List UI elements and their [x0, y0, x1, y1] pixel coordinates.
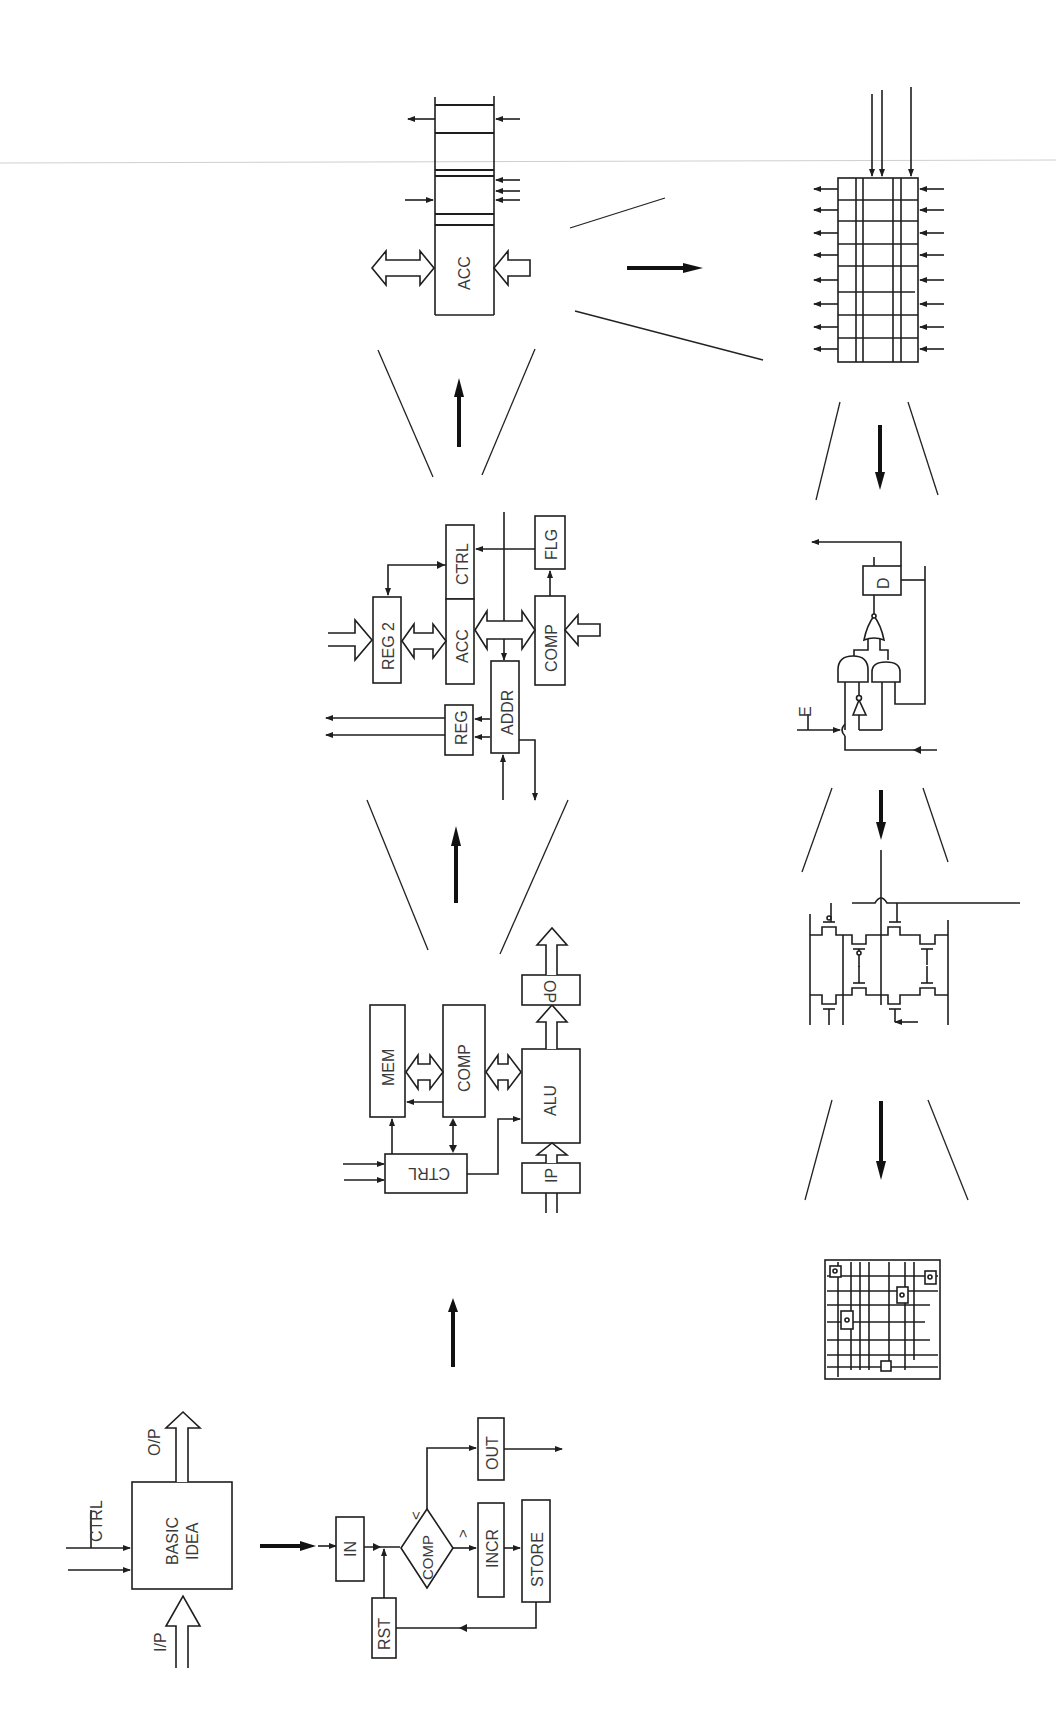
flow-in-arrowhead [373, 1543, 381, 1551]
stage-block-diagram: CTRL MEM COMP ALU IP OP [343, 928, 580, 1213]
layout-via-2 [845, 1318, 849, 1322]
flow-in-label: IN [342, 1541, 359, 1557]
rt-reg-label: REG [453, 710, 470, 745]
stage-layout [825, 1260, 940, 1379]
basic-idea-box [132, 1482, 232, 1589]
layout-via-1 [833, 1269, 837, 1273]
refine-arrow-3-head [451, 826, 461, 846]
stage-register-detail: ACC [372, 96, 530, 315]
tr-upper-chain [810, 927, 948, 944]
refine-arrow-8-head [876, 1161, 886, 1180]
block-comp-label: COMP [456, 1044, 473, 1092]
layout-via-3 [900, 1293, 904, 1297]
refine-arrow-4-head [454, 378, 464, 397]
stage-basic-idea: BASIC IDEA CTRL I/P O/P [66, 1412, 232, 1668]
tr-pmos-bubble-1 [827, 916, 831, 920]
gate-d-label: D [875, 577, 892, 589]
rt-comp-label: COMP [543, 624, 560, 672]
funnel-5-top [570, 198, 665, 228]
flow-loop-arrowhead [459, 1624, 467, 1632]
gate-feedback-out [812, 542, 901, 566]
output-hollow-arrow [166, 1412, 200, 1482]
tr-hop [852, 898, 1020, 903]
rd-left-bus [372, 251, 434, 285]
block-bidir-head-down [449, 1145, 457, 1153]
refine-arrow-5-head [683, 263, 703, 273]
gate-and-2 [872, 662, 900, 682]
gate-input-head [913, 746, 921, 754]
scan-line [0, 160, 1056, 163]
funnel-7-left [802, 788, 832, 872]
flow-store-loop [396, 1602, 536, 1628]
input-hollow-arrow [166, 1596, 200, 1668]
flow-incr-label: INCR [484, 1529, 501, 1568]
gate-inverter [853, 700, 866, 715]
bs-grid-frame [838, 178, 918, 362]
rt-reg2-input-bus [328, 620, 372, 660]
refine-arrow-2-head [448, 1298, 458, 1312]
ip-label: I/P [152, 1632, 169, 1652]
refine-arrow-6-head [875, 472, 885, 490]
layout-contact-5 [881, 1361, 891, 1371]
block-ctrl-to-alu [467, 1119, 520, 1174]
stage-gate-level: D E [797, 542, 937, 754]
gate-and-1 [838, 656, 868, 682]
funnel-8-right [928, 1100, 968, 1200]
refine-arrow-1-head [300, 1541, 316, 1551]
block-ip-to-alu [537, 1143, 567, 1163]
rd-acc-label: ACC [456, 256, 473, 290]
gate-e-label: E [797, 706, 814, 717]
gate-and2-to-or [880, 639, 888, 660]
rt-ctrl-link-head [437, 561, 445, 569]
block-bidir-head-up [449, 1118, 457, 1126]
funnel-6-right [908, 402, 938, 495]
block-ctrl-label: CTRL [408, 1165, 450, 1182]
tr-pmos-bubble-3 [857, 951, 861, 955]
rt-ctrl-reg2-link [388, 565, 446, 595]
block-op-label: OP [541, 980, 558, 1003]
rd-right-bus [494, 251, 530, 285]
funnel-8-left [805, 1100, 832, 1200]
block-alu-to-op [537, 1005, 567, 1049]
block-mem-comp-bus [406, 1055, 443, 1089]
funnel-7-right [923, 788, 948, 862]
rt-acc-comp-bus [475, 611, 535, 649]
ctrl-label: CTRL [88, 1500, 105, 1542]
block-comp-alu-bus [486, 1055, 521, 1089]
gate-input-line [845, 736, 937, 750]
stage-register-transfer: REG 2 CTRL ACC FLG COMP ADDR REG [326, 512, 600, 800]
block-ip-label: IP [543, 1168, 560, 1183]
flow-comp-to-out [427, 1448, 476, 1509]
rt-acc-label: ACC [454, 629, 471, 663]
rt-addr-out [519, 740, 535, 800]
rt-reg2-label: REG 2 [380, 622, 397, 670]
layout-via-4 [928, 1275, 932, 1279]
stage-flowchart: IN RST COMP < > OUT INCR STORE [318, 1418, 562, 1658]
funnel-4-left [378, 350, 433, 477]
design-hierarchy-diagram: BASIC IDEA CTRL I/P O/P IN RST COMP < > [0, 0, 1056, 1726]
flow-compare-label: COMP [419, 1535, 436, 1580]
flow-out-label: OUT [484, 1436, 501, 1470]
flow-less-than: < [407, 1511, 424, 1520]
block-mem-label: MEM [380, 1049, 397, 1086]
flow-greater-than: > [454, 1529, 471, 1538]
gate-or [864, 616, 884, 640]
gate-or-bubble [872, 614, 876, 618]
flow-store-label: STORE [529, 1532, 546, 1587]
block-op-hollow-arrow [537, 928, 567, 975]
flow-rst-label: RST [376, 1618, 393, 1650]
funnel-4-right [482, 349, 535, 475]
block-alu-label: ALU [542, 1085, 559, 1116]
op-label: O/P [146, 1428, 163, 1456]
funnel-3-right [500, 800, 568, 954]
funnel-5-bottom [575, 311, 763, 360]
rt-flg-label: FLG [543, 529, 560, 560]
gate-inverter-bubble [857, 696, 862, 701]
rt-ctrl-label: CTRL [454, 543, 471, 585]
refine-arrow-7-head [876, 822, 886, 840]
rt-addr-label: ADDR [499, 690, 516, 735]
rt-comp-input-bus [565, 615, 600, 645]
funnel-6-left [816, 402, 840, 500]
stage-bit-slice [814, 87, 944, 362]
tr-lower-chain [810, 988, 948, 1004]
